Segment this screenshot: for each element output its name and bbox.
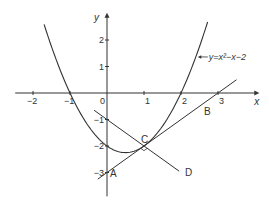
x-axis-arrow-icon	[254, 91, 259, 96]
right-angle-marker	[141, 148, 148, 150]
x-tick-label: 0	[100, 96, 105, 106]
x-tick-label: −1	[64, 96, 74, 106]
y-tick-label: −3	[94, 168, 104, 178]
x-tick-label: 2	[182, 96, 187, 106]
point-label-a: A	[110, 168, 117, 179]
y-axis-label: y	[93, 12, 100, 23]
point-label-d: D	[185, 167, 192, 178]
x-tick-label: −2	[27, 96, 37, 106]
x-tick-label: 3	[219, 96, 224, 106]
graph: xy−2−1012321−1−2−3ABCDy=x²−x−2	[0, 0, 269, 210]
labels: xy−2−1012321−1−2−3ABCDy=x²−x−2	[27, 12, 260, 179]
y-axis-arrow-icon	[105, 13, 110, 18]
equation-arrow-icon	[198, 55, 202, 59]
x-axis-label: x	[253, 96, 260, 107]
y-tick-label: −2	[94, 141, 104, 151]
point-label-c: C	[141, 134, 148, 145]
y-tick-label: 1	[99, 62, 104, 72]
x-tick-label: 1	[145, 96, 150, 106]
line-ab	[98, 80, 237, 179]
curve-equation-label: y=x²−x−2	[208, 52, 246, 62]
y-tick-label: 2	[99, 35, 104, 45]
y-tick-label: −1	[94, 115, 104, 125]
point-label-b: B	[204, 106, 211, 117]
